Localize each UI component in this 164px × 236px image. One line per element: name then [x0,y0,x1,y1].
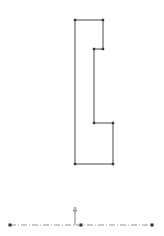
revolve-centerline[interactable] [9,224,154,227]
sketch-vertex[interactable] [102,19,104,21]
centerline-point[interactable] [151,224,154,227]
sketch-canvas[interactable] [0,0,164,236]
sketch-vertex[interactable] [74,19,76,21]
centerline-point[interactable] [80,224,83,227]
sketch-vertex[interactable] [93,122,95,124]
sketch-vertex[interactable] [74,163,76,165]
profile-outline[interactable] [75,20,113,164]
sketch-vertex[interactable] [112,122,114,124]
origin-arrow-icon [73,207,77,225]
sketch-profile[interactable] [74,19,114,165]
sketch-vertex[interactable] [102,48,104,50]
sketch-vertex[interactable] [112,163,114,165]
sketch-vertex[interactable] [93,48,95,50]
centerline-point[interactable] [9,224,12,227]
